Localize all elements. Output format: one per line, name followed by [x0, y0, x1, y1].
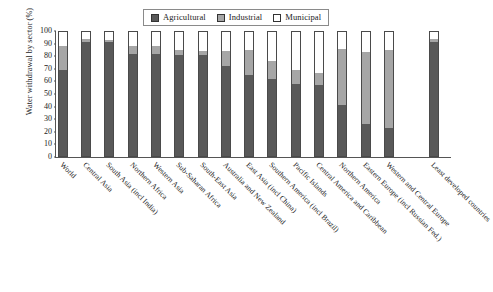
y-axis-title: Water withdrawal by sector (%): [25, 0, 34, 127]
bar-segment-agricultural: [337, 105, 347, 157]
bar-segment-agricultural: [361, 124, 371, 157]
bar-segment-industrial: [58, 46, 68, 70]
bar-segment-municipal: [337, 31, 347, 49]
plot-area: 1009080706050403020100: [56, 31, 450, 157]
y-tick-mark-40: [54, 106, 56, 107]
legend-entry-municipal: Municipal: [273, 13, 321, 22]
bar-western-and-central-europe: [384, 31, 394, 157]
legend-swatch-municipal: [273, 14, 281, 22]
bar-segment-agricultural: [314, 85, 324, 157]
y-tick-mark-70: [54, 68, 56, 69]
bar-segment-agricultural: [244, 75, 254, 157]
legend-entry-agricultural: Agricultural: [151, 13, 206, 22]
bar-central-asia: [81, 31, 91, 157]
legend-label-agricultural: Agricultural: [163, 13, 206, 22]
bar-segment-agricultural: [58, 70, 68, 157]
bar-southern-america-incl-brazil: [267, 31, 277, 157]
bar-segment-agricultural: [221, 66, 231, 157]
bar-south-asia-incl-india: [104, 31, 114, 157]
bar-segment-municipal: [384, 31, 394, 50]
bar-western-asia: [151, 31, 161, 157]
x-axis-line: [55, 157, 451, 158]
bar-segment-industrial: [221, 51, 231, 66]
y-tick-mark-100: [54, 31, 56, 32]
bar-segment-municipal: [104, 31, 114, 40]
bar-segment-municipal: [291, 31, 301, 70]
bar-segment-agricultural: [151, 54, 161, 157]
bar-pacific-islands: [291, 31, 301, 157]
bar-segment-industrial: [291, 70, 301, 84]
bar-segment-agricultural: [267, 79, 277, 157]
bar-segment-industrial: [244, 50, 254, 75]
bar-south-east-asia: [198, 31, 208, 157]
legend-swatch-industrial: [217, 14, 225, 22]
bar-segment-industrial: [314, 73, 324, 86]
bar-segment-industrial: [128, 46, 138, 54]
bar-eastern-europe-incl-russian-fed: [361, 31, 371, 157]
bar-segment-agricultural: [128, 54, 138, 157]
bar-segment-municipal: [221, 31, 231, 51]
bar-segment-agricultural: [384, 128, 394, 157]
bar-segment-municipal: [58, 31, 68, 46]
bar-segment-municipal: [314, 31, 324, 73]
bar-northern-america: [337, 31, 347, 157]
bar-australia-and-new-zealand: [221, 31, 231, 157]
y-tick-mark-0: [54, 157, 56, 158]
y-tick-mark-50: [54, 94, 56, 95]
bar-least-developed-countries: [429, 31, 439, 157]
bar-segment-industrial: [151, 46, 161, 54]
bar-segment-agricultural: [429, 42, 439, 157]
y-tick-mark-20: [54, 131, 56, 132]
chart-legend: Agricultural Industrial Municipal: [143, 9, 329, 26]
bar-segment-municipal: [174, 31, 184, 50]
bar-segment-agricultural: [174, 55, 184, 157]
bar-segment-municipal: [151, 31, 161, 46]
y-tick-mark-60: [54, 81, 56, 82]
bar-segment-municipal: [267, 31, 277, 61]
bar-central-america-and-caribbean: [314, 31, 324, 157]
y-tick-mark-10: [54, 144, 56, 145]
bar-segment-municipal: [81, 31, 91, 39]
bar-segment-municipal: [361, 31, 371, 52]
bar-segment-agricultural: [81, 42, 91, 157]
bar-segment-municipal: [128, 31, 138, 46]
bar-segment-municipal: [429, 31, 439, 39]
bar-segment-agricultural: [198, 55, 208, 157]
bar-segment-agricultural: [291, 84, 301, 157]
legend-label-industrial: Industrial: [229, 13, 263, 22]
bar-segment-industrial: [384, 50, 394, 128]
bar-sub-saharan-africa: [174, 31, 184, 157]
y-tick-mark-90: [54, 43, 56, 44]
bar-segment-industrial: [361, 52, 371, 124]
bar-segment-municipal: [198, 31, 208, 51]
bar-world: [58, 31, 68, 157]
legend-label-municipal: Municipal: [285, 13, 321, 22]
y-tick-mark-30: [54, 119, 56, 120]
bar-northern-africa: [128, 31, 138, 157]
bar-segment-municipal: [244, 31, 254, 50]
x-axis-label-0: World: [58, 161, 77, 180]
bar-east-asia-incl-china: [244, 31, 254, 157]
bar-segment-industrial: [337, 49, 347, 106]
bar-segment-agricultural: [104, 42, 114, 157]
legend-entry-industrial: Industrial: [217, 13, 263, 22]
bar-segment-industrial: [267, 61, 277, 79]
y-tick-mark-80: [54, 56, 56, 57]
legend-swatch-agricultural: [151, 14, 159, 22]
